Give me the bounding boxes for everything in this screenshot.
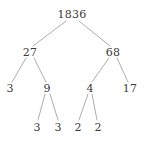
tree-edge: [12, 58, 26, 82]
tree-edge: [50, 94, 58, 120]
tree-node: 4: [86, 83, 93, 94]
tree-edge: [38, 94, 45, 120]
tree-node: 3: [54, 122, 61, 133]
tree-diagram: 18362768394173322: [0, 0, 145, 141]
tree-node: 17: [123, 83, 137, 94]
tree-node: 3: [6, 83, 13, 94]
tree-node: 27: [23, 47, 37, 58]
tree-node: 9: [43, 83, 50, 94]
tree-edge-layer: [0, 0, 145, 141]
tree-edge: [79, 94, 88, 120]
tree-node: 3: [33, 122, 40, 133]
tree-node: 2: [74, 122, 81, 133]
tree-edge: [79, 21, 110, 46]
tree-node: 2: [94, 122, 101, 133]
tree-edge: [33, 21, 66, 46]
tree-edges: [12, 21, 128, 120]
tree-edge: [92, 58, 109, 82]
tree-node-root: 1836: [58, 9, 87, 20]
tree-edge: [117, 58, 128, 82]
tree-node: 68: [106, 47, 120, 58]
tree-edge: [92, 94, 97, 120]
tree-edge: [34, 58, 46, 82]
